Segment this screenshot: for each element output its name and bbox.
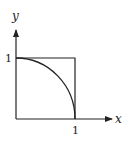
y-tick-label: 1: [5, 52, 12, 65]
quarter-circle-arc: [16, 58, 75, 119]
diagram-canvas: y x 1 1: [0, 0, 131, 141]
x-axis-label: x: [115, 112, 122, 126]
unit-square: [16, 58, 75, 119]
x-tick-label: 1: [72, 124, 79, 137]
y-axis-label: y: [11, 9, 19, 23]
